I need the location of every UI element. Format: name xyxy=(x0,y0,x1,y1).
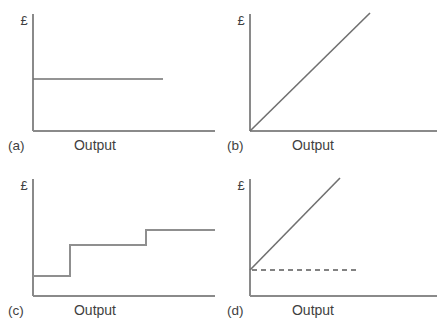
semi-variable-total-line xyxy=(250,178,340,270)
y-axis-label: £ xyxy=(20,178,28,193)
variable-cost-line xyxy=(250,13,370,131)
x-axis-label: Output xyxy=(74,302,116,318)
chart-panel-a: £ (a) Output xyxy=(0,0,220,165)
x-axis-label: Output xyxy=(292,302,334,318)
chart-panel-c: £ (c) Output xyxy=(0,165,220,330)
x-axis-label: Output xyxy=(292,137,334,153)
chart-panel-b: £ (b) Output xyxy=(220,0,440,165)
y-axis-label: £ xyxy=(237,13,245,28)
panel-tag: (a) xyxy=(8,138,25,153)
panel-tag: (b) xyxy=(227,138,244,153)
panel-tag: (d) xyxy=(227,303,244,318)
y-axis-label: £ xyxy=(20,13,28,28)
y-axis-label: £ xyxy=(237,178,245,193)
chart-panel-d: £ (d) Output xyxy=(220,165,440,330)
panel-tag: (c) xyxy=(8,303,24,318)
x-axis-label: Output xyxy=(74,137,116,153)
cost-behaviour-figure: £ (a) Output £ (b) Output £ (c) Output xyxy=(0,0,441,331)
stepped-cost-line xyxy=(33,230,215,276)
